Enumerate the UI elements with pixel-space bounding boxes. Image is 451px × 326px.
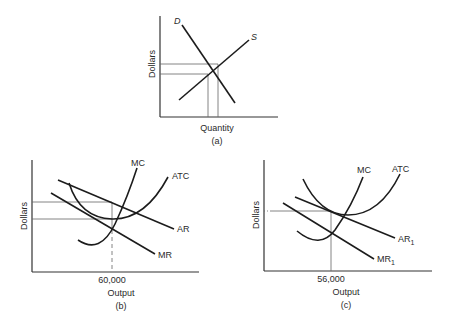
x-tick-label: 56,000: [317, 274, 345, 284]
supply-label: S: [251, 32, 257, 42]
mc-label: MC: [357, 165, 371, 175]
supply-curve: [179, 40, 249, 100]
panel-a: D S Dollars Quantity (a): [147, 16, 278, 146]
mc-label: MC: [131, 158, 145, 168]
economics-figure: D S Dollars Quantity (a) MC ATC AR MR Do…: [0, 0, 451, 326]
atc-label: ATC: [392, 164, 410, 174]
y-axis-label: Dollars: [147, 50, 157, 79]
panel-caption: (c): [341, 300, 352, 310]
x-axis-label: Output: [332, 287, 360, 297]
x-axis-label: Output: [107, 288, 135, 298]
panel-caption: (b): [116, 301, 127, 311]
y-axis-label: Dollars: [251, 201, 261, 230]
demand-label: D: [174, 16, 181, 26]
mr1-label: MR1: [377, 254, 395, 266]
y-axis-label: Dollars: [19, 202, 29, 231]
panel-c: MC ATC AR1 MR1 Dollars 56,000 Output (c): [251, 160, 432, 310]
mr-label: MR: [158, 250, 172, 260]
atc-curve: [303, 174, 400, 215]
x-axis-label: Quantity: [200, 123, 234, 133]
atc-label: ATC: [172, 171, 190, 181]
mc-curve: [78, 168, 137, 245]
ar-label: AR: [177, 224, 190, 234]
ar1-label: AR1: [398, 234, 415, 246]
x-tick-label: 60,000: [98, 275, 126, 285]
panel-b: MC ATC AR MR Dollars 60,000 Output (b): [19, 158, 199, 311]
panel-caption: (a): [212, 136, 223, 146]
